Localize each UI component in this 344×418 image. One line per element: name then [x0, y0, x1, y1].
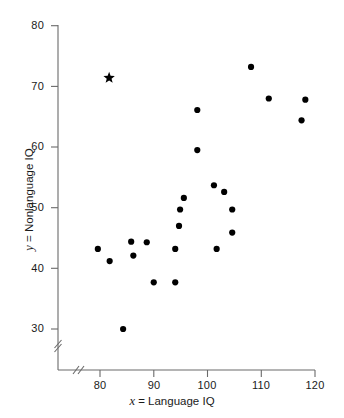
- data-point: [229, 206, 235, 212]
- y-axis-title-variable: y: [22, 245, 36, 251]
- data-point: [229, 229, 235, 235]
- data-point: [120, 326, 126, 332]
- xtick-label-90: 90: [140, 379, 168, 391]
- data-point: [194, 107, 200, 113]
- data-point-group: [95, 64, 309, 332]
- data-point: [130, 253, 136, 259]
- data-point: [248, 64, 254, 70]
- data-point-star: [103, 72, 114, 83]
- data-point: [128, 239, 134, 245]
- ytick-label-80: 80: [20, 19, 44, 31]
- ytick-label-30: 30: [20, 322, 44, 334]
- data-point: [181, 195, 187, 201]
- data-point: [211, 182, 217, 188]
- xtick-label-80: 80: [86, 379, 114, 391]
- data-point: [176, 223, 182, 229]
- data-point: [144, 239, 150, 245]
- plot-canvas: [0, 0, 344, 418]
- data-point: [95, 246, 101, 252]
- scatter-plot-figure: 80 70 60 50 40 30 80 90 100 110 120 x = …: [0, 0, 344, 418]
- y-tick-marks: [51, 26, 58, 329]
- data-point: [172, 246, 178, 252]
- xtick-label-100: 100: [193, 379, 221, 391]
- y-axis-title-text: = Nonlanguage IQ: [23, 148, 35, 245]
- x-axis-title-text: = Language IQ: [135, 395, 215, 407]
- data-point: [107, 258, 113, 264]
- xtick-label-110: 110: [247, 379, 275, 391]
- x-axis-title: x = Language IQ: [0, 394, 344, 409]
- data-point: [302, 97, 308, 103]
- data-point: [172, 279, 178, 285]
- data-point: [266, 95, 272, 101]
- x-tick-marks: [100, 370, 315, 377]
- y-axis-title: y = Nonlanguage IQ: [22, 85, 37, 315]
- data-point: [221, 189, 227, 195]
- data-point: [298, 117, 304, 123]
- data-point: [194, 147, 200, 153]
- xtick-label-120: 120: [301, 379, 329, 391]
- data-point: [177, 206, 183, 212]
- data-point: [151, 279, 157, 285]
- data-point: [214, 246, 220, 252]
